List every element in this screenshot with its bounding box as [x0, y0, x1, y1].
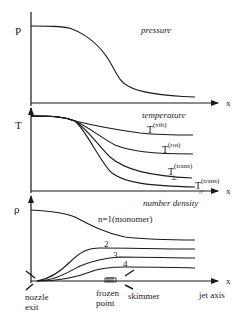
nozzle-mark-lower	[26, 284, 33, 290]
density-title: number density	[143, 198, 198, 208]
label-t-trans-parallel: T (trans) //	[195, 177, 220, 196]
svg-text:(vib): (vib)	[153, 121, 167, 129]
jet-expansion-diagram: P pressure x T temperature x T (vib) T (…	[0, 0, 246, 322]
svg-text:(rot): (rot)	[168, 141, 181, 149]
density-trimer-curve	[37, 257, 195, 281]
pressure-panel: P pressure x	[15, 12, 231, 108]
temperature-panel: T temperature x T (vib) T (rot) T (trans…	[15, 108, 231, 196]
label-dimer: 2	[104, 239, 109, 249]
skimmer-mark-upper	[125, 270, 134, 276]
frozen-label-line2: point	[96, 298, 115, 308]
svg-text:⊥: ⊥	[171, 174, 177, 182]
svg-text:(trans): (trans)	[201, 177, 220, 185]
jet-axis-label: jet axis	[198, 290, 225, 300]
temperature-x-label: x	[226, 186, 231, 196]
label-t-trans-perp: T (trans) ⊥	[168, 162, 193, 182]
pressure-curve	[31, 26, 195, 97]
density-panel: ρ number density x n=1(monomer) 2 3 4 no…	[14, 196, 231, 312]
label-tetramer: 4	[123, 259, 128, 269]
pressure-y-label: P	[15, 25, 21, 37]
skimmer-label: skimmer	[128, 291, 160, 301]
density-y-label: ρ	[14, 203, 20, 215]
label-monomer: n=1(monomer)	[98, 214, 153, 224]
pressure-x-label: x	[226, 98, 231, 108]
pressure-title: pressure	[140, 25, 171, 35]
svg-text://: //	[198, 188, 204, 196]
temperature-y-label: T	[15, 119, 22, 131]
temperature-title: temperature	[142, 110, 186, 120]
label-trimer: 3	[113, 250, 118, 260]
density-x-label: x	[226, 276, 231, 286]
svg-text:(trans): (trans)	[174, 162, 193, 170]
nozzle-label-line2: exit	[25, 302, 39, 312]
label-t-rot: T (rot)	[162, 141, 181, 155]
nozzle-label-line1: nozzle	[25, 292, 48, 302]
frozen-label-line1: frozen	[96, 288, 119, 298]
skimmer-mark-lower	[125, 285, 133, 289]
label-t-vib: T (vib)	[147, 121, 167, 135]
